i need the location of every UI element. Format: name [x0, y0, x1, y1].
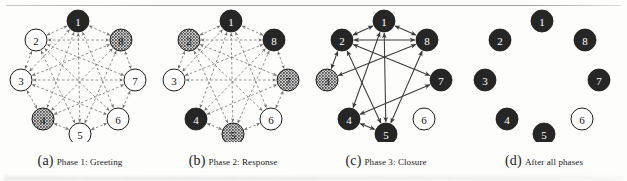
node-4[interactable]: 4	[32, 108, 54, 130]
node-5[interactable]: 5	[533, 123, 555, 142]
node-circle-3[interactable]	[316, 69, 338, 91]
node-circle-6[interactable]	[107, 108, 129, 130]
node-8[interactable]: 8	[263, 29, 285, 51]
panel-d: 12345678 (d)After all phases	[468, 6, 620, 174]
node-circle-1[interactable]	[531, 10, 553, 32]
node-circle-8[interactable]	[574, 29, 596, 51]
node-circle-6[interactable]	[571, 108, 593, 130]
edge-4-8	[52, 49, 113, 111]
node-circle-1[interactable]	[220, 10, 242, 32]
edge-6-7	[276, 91, 283, 108]
edge-1-6	[236, 32, 267, 107]
node-circle-5[interactable]	[222, 123, 244, 142]
node-circle-1[interactable]	[373, 10, 395, 32]
node-circle-4[interactable]	[496, 108, 518, 130]
node-4[interactable]: 4	[338, 108, 360, 130]
edge-4-5	[207, 124, 221, 130]
node-7[interactable]: 7	[277, 69, 299, 91]
edge-5-6	[91, 123, 106, 129]
node-5[interactable]: 5	[69, 123, 91, 142]
node-circle-2[interactable]	[25, 29, 47, 51]
node-circle-2[interactable]	[489, 29, 511, 51]
node-6[interactable]: 6	[260, 108, 282, 130]
node-5[interactable]: 5	[222, 123, 244, 142]
panel-a: 12345678 (a)Phase 1: Greeting	[4, 6, 156, 174]
edge-2-1	[47, 26, 67, 35]
node-circle-7[interactable]	[124, 69, 146, 91]
edge-4-5	[54, 124, 68, 130]
edge-8-1	[242, 26, 263, 35]
node-circle-3[interactable]	[163, 69, 185, 91]
panel-b-caption-text: Phase 2: Response	[209, 157, 278, 167]
node-7[interactable]: 7	[588, 69, 610, 91]
node-3[interactable]: 3	[474, 69, 496, 91]
node-1[interactable]: 1	[531, 10, 553, 32]
panel-b-letter: (b)	[189, 153, 206, 168]
node-2[interactable]: 2	[331, 29, 353, 51]
node-circle-8[interactable]	[416, 29, 438, 51]
node-circle-6[interactable]	[413, 108, 435, 130]
node-circle-7[interactable]	[430, 69, 452, 91]
page-bottom-artifact	[4, 176, 622, 181]
edge-1-5	[384, 33, 386, 122]
graph-d: 12345678	[468, 6, 620, 142]
node-1[interactable]: 1	[373, 10, 395, 32]
edge-1-4	[353, 32, 380, 107]
node-8[interactable]: 8	[574, 29, 596, 51]
node-circle-4[interactable]	[32, 108, 54, 130]
node-7[interactable]: 7	[124, 69, 146, 91]
node-circle-2[interactable]	[331, 29, 353, 51]
edge-2-3	[25, 51, 31, 68]
node-1[interactable]: 1	[220, 10, 242, 32]
edge-2-3	[331, 51, 337, 68]
node-5[interactable]: 5	[375, 123, 397, 142]
node-3[interactable]: 3	[316, 69, 338, 91]
node-6[interactable]: 6	[413, 108, 435, 130]
edge-2-3	[178, 51, 184, 68]
panel-d-caption-text: After all phases	[525, 157, 583, 167]
edge-6-7	[123, 91, 130, 108]
edge-5-6	[244, 123, 259, 129]
node-circle-5[interactable]	[533, 123, 555, 142]
node-circle-5[interactable]	[375, 123, 397, 142]
panel-a-caption-text: Phase 1: Greeting	[57, 157, 123, 167]
panel-c-graph: 12345678	[310, 6, 462, 142]
node-4[interactable]: 4	[496, 108, 518, 130]
node-2[interactable]: 2	[178, 29, 200, 51]
node-circle-7[interactable]	[588, 69, 610, 91]
edge-1-4	[200, 32, 227, 107]
node-circle-2[interactable]	[178, 29, 200, 51]
node-6[interactable]: 6	[571, 108, 593, 130]
node-2[interactable]: 2	[25, 29, 47, 51]
node-circle-3[interactable]	[10, 69, 32, 91]
node-circle-6[interactable]	[260, 108, 282, 130]
node-8[interactable]: 8	[416, 29, 438, 51]
node-1[interactable]: 1	[67, 10, 89, 32]
node-3[interactable]: 3	[10, 69, 32, 91]
node-6[interactable]: 6	[107, 108, 129, 130]
panel-a-caption: (a)Phase 1: Greeting	[4, 152, 156, 168]
node-circle-5[interactable]	[69, 123, 91, 142]
edge-3-8	[338, 45, 415, 76]
node-circle-4[interactable]	[338, 108, 360, 130]
node-circle-8[interactable]	[263, 29, 285, 51]
panel-d-letter: (d)	[505, 153, 522, 168]
node-circle-8[interactable]	[110, 29, 132, 51]
node-circle-3[interactable]	[474, 69, 496, 91]
panel-c: 12345678 (c)Phase 3: Closure	[310, 6, 462, 174]
graph-a: 12345678	[4, 6, 156, 142]
node-circle-1[interactable]	[67, 10, 89, 32]
edge-4-8	[205, 49, 266, 111]
node-7[interactable]: 7	[430, 69, 452, 91]
edge-1-5	[231, 33, 233, 122]
node-circle-7[interactable]	[277, 69, 299, 91]
edge-8-1	[89, 26, 110, 35]
graph-b: 12345678	[157, 6, 309, 142]
node-8[interactable]: 8	[110, 29, 132, 51]
node-4[interactable]: 4	[185, 108, 207, 130]
node-3[interactable]: 3	[163, 69, 185, 91]
node-2[interactable]: 2	[489, 29, 511, 51]
node-circle-4[interactable]	[185, 108, 207, 130]
edge-7-8	[278, 52, 284, 69]
node-layer: 12345678	[163, 10, 299, 142]
